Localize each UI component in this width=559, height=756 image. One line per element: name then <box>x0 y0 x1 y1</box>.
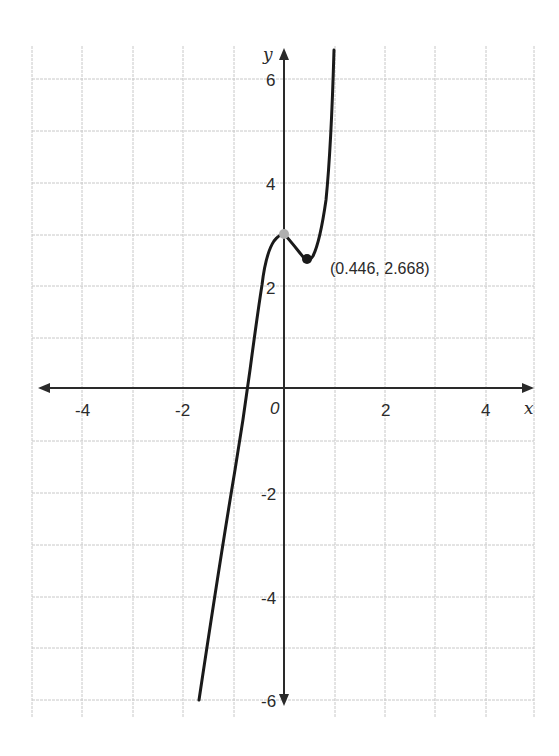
y-tick-4: 4 <box>266 175 275 194</box>
axes <box>38 48 534 706</box>
x-tick-neg4: -4 <box>75 401 90 420</box>
y-axis-label: y <box>262 44 273 64</box>
y-tick-2: 2 <box>266 279 275 298</box>
x-tick-neg2: -2 <box>175 401 190 420</box>
min-point-annotation: (0.446, 2.668) <box>330 260 430 277</box>
local-min-point <box>302 254 312 264</box>
y-tick-neg4: -4 <box>261 589 276 608</box>
x-axis-label: x <box>524 398 534 418</box>
y-tick-neg2: -2 <box>261 485 276 504</box>
x-axis-left-arrow-icon <box>38 383 50 393</box>
y-axis-up-arrow-icon <box>279 48 289 60</box>
chart: y x 6 4 2 -2 -4 -6 -4 -2 2 4 0 (0.446, 2… <box>0 0 559 756</box>
x-tick-4: 4 <box>481 401 490 420</box>
origin-label: 0 <box>270 399 280 418</box>
y-tick-neg6: -6 <box>261 692 276 711</box>
y-tick-6: 6 <box>266 71 275 90</box>
x-tick-2: 2 <box>381 401 390 420</box>
x-axis-right-arrow-icon <box>522 383 534 393</box>
local-max-point <box>279 229 289 239</box>
